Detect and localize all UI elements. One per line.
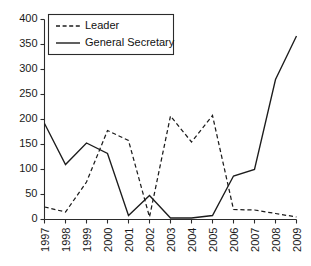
y-tick-label: 200 — [19, 112, 37, 124]
legend-label-general-secretary: General Secretary — [85, 36, 175, 48]
chart-legend: Leader General Secretary — [49, 15, 175, 55]
x-tick-label: 2008 — [270, 228, 282, 252]
y-tick-group — [41, 20, 45, 220]
x-tick-label: 1999 — [81, 228, 93, 252]
series-line-leader — [45, 116, 297, 218]
x-tick-label: 1997 — [39, 228, 51, 252]
x-tick-label: 2003 — [165, 228, 177, 252]
y-tick-label: 400 — [19, 12, 37, 24]
y-tick-label: 350 — [19, 37, 37, 49]
legend-label-leader: Leader — [85, 19, 120, 31]
x-tick-label: 2004 — [186, 228, 198, 252]
y-tick-label: 0 — [31, 212, 37, 224]
y-tick-label: 300 — [19, 62, 37, 74]
chart-svg: 050100150200250300350400 199719981999200… — [0, 0, 311, 266]
x-tick-label: 2000 — [102, 228, 114, 252]
x-tick-label: 2005 — [207, 228, 219, 252]
x-tick-label: 2009 — [291, 228, 303, 252]
line-chart: 050100150200250300350400 199719981999200… — [0, 0, 311, 266]
x-tick-label-group: 1997199819992000200120022003200420052006… — [39, 228, 303, 252]
x-tick-group — [45, 220, 297, 224]
y-tick-label-group: 050100150200250300350400 — [19, 12, 37, 224]
y-tick-label: 250 — [19, 87, 37, 99]
x-tick-label: 2002 — [144, 228, 156, 252]
y-tick-label: 150 — [19, 137, 37, 149]
x-tick-label: 1998 — [60, 228, 72, 252]
x-tick-label: 2007 — [249, 228, 261, 252]
series-line-general-secretary — [45, 36, 297, 218]
x-tick-label: 2001 — [123, 228, 135, 252]
y-tick-label: 50 — [25, 187, 37, 199]
x-tick-label: 2006 — [228, 228, 240, 252]
y-tick-label: 100 — [19, 162, 37, 174]
